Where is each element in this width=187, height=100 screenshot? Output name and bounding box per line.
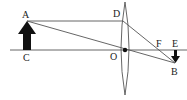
ray-through-center <box>27 21 175 63</box>
lens-diagram: A C D O F E B <box>0 0 187 100</box>
ray-refracted <box>123 21 175 63</box>
label-E: E <box>172 38 178 49</box>
label-B: B <box>171 66 178 77</box>
optical-center-dot <box>123 48 127 52</box>
label-F: F <box>156 38 162 49</box>
label-A: A <box>22 9 30 20</box>
label-O: O <box>110 51 117 62</box>
label-D: D <box>113 8 120 19</box>
label-C: C <box>23 52 30 63</box>
object-arrow <box>18 21 36 50</box>
